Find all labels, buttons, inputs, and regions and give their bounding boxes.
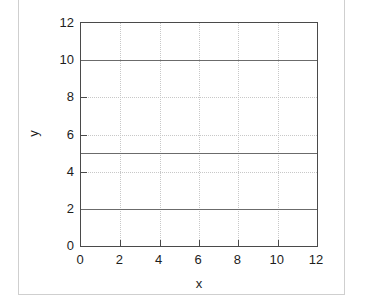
x-axis-tick bbox=[238, 240, 239, 246]
x-axis-tick-label: 2 bbox=[99, 253, 139, 266]
gridline-horizontal bbox=[81, 97, 317, 98]
x-axis-tick bbox=[199, 240, 200, 246]
gridline-horizontal bbox=[81, 172, 317, 173]
y-axis-tick bbox=[81, 135, 87, 136]
x-axis-tick-label: 8 bbox=[217, 253, 257, 266]
plot-area bbox=[80, 22, 318, 247]
x-axis-tick-label: 6 bbox=[178, 253, 218, 266]
gridline-horizontal bbox=[81, 135, 317, 136]
x-axis-tick-labels: 024681012 bbox=[80, 253, 318, 271]
data-series-line bbox=[81, 60, 317, 61]
x-axis-tick bbox=[278, 240, 279, 246]
y-axis-tick-label: 12 bbox=[34, 16, 74, 29]
x-axis-tick-label: 12 bbox=[296, 253, 336, 266]
y-axis-tick-labels: 024681012 bbox=[30, 22, 74, 247]
y-axis-tick-label: 0 bbox=[34, 239, 74, 252]
x-axis-tick-label: 4 bbox=[139, 253, 179, 266]
x-axis-tick-label: 10 bbox=[257, 253, 297, 266]
y-axis-tick-label: 6 bbox=[34, 127, 74, 140]
y-axis-tick bbox=[81, 97, 87, 98]
gridline-vertical bbox=[120, 23, 121, 246]
y-axis-tick-label: 8 bbox=[34, 90, 74, 103]
gridline-vertical bbox=[278, 23, 279, 246]
x-axis-tick bbox=[160, 240, 161, 246]
gridline-vertical bbox=[160, 23, 161, 246]
x-axis-tick bbox=[120, 240, 121, 246]
y-axis-tick-label: 2 bbox=[34, 201, 74, 214]
gridline-vertical bbox=[199, 23, 200, 246]
data-series-line bbox=[81, 209, 317, 210]
x-axis-title: x bbox=[80, 276, 318, 291]
x-axis-tick-label: 0 bbox=[60, 253, 100, 266]
y-axis-tick-label: 10 bbox=[34, 53, 74, 66]
chart-figure: y 024681012 024681012 x bbox=[0, 0, 367, 308]
data-series-line bbox=[81, 153, 317, 154]
y-axis-tick-label: 4 bbox=[34, 164, 74, 177]
y-axis-tick bbox=[81, 172, 87, 173]
gridline-vertical bbox=[238, 23, 239, 246]
